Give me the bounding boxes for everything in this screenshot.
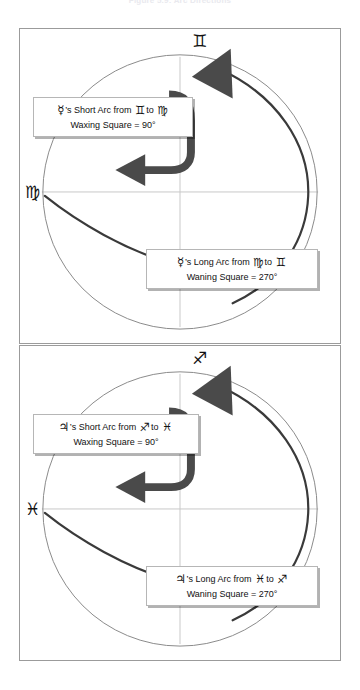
from-sign-symbol: ♓ [254,572,266,586]
to-sign-symbol: ♓ [161,420,173,434]
possessive-text: ’s Long Arc from [185,257,250,267]
planet-symbol: ♃ [175,572,186,586]
callout-line-1: ☿’s Long Arc from ♍to ♊ [154,254,310,271]
mercury-panel: ♊ ♍ [19,28,341,344]
to-sign-symbol: ♊ [275,255,287,269]
sign-glyph-top-mercury: ♊ [192,33,207,50]
callout-line-1: ♃’s Short Arc from ♐to ♓ [41,419,191,436]
from-sign-symbol: ♊ [134,103,146,117]
to-word: to [151,422,159,432]
to-sign-symbol: ♐ [276,572,288,586]
callout-line-2: Waning Square = 270° [154,271,310,283]
sign-glyph-left-mercury: ♍ [25,184,40,201]
callout-line-1: ♃’s Long Arc from ♓to ♐ [154,571,310,588]
figure-page: Figure 5.9: Arc Directions ♊ ♍ [0,0,360,690]
from-sign-symbol: ♐ [139,420,151,434]
callout-long-arc-jupiter: ♃’s Long Arc from ♓to ♐ Waning Square = … [146,566,318,606]
possessive-text: ’s Short Arc from [65,105,131,115]
jupiter-panel: ♐ ♓ [19,345,341,661]
sign-glyph-top-jupiter: ♐ [192,350,207,367]
to-word: to [265,257,273,267]
jupiter-diagram-graphics [20,346,340,660]
sign-glyph-left-jupiter: ♓ [25,501,40,518]
callout-short-arc-mercury: ☿’s Short Arc from ♊to ♍ Waxing Square =… [33,97,193,137]
callout-line-2: Waxing Square = 90° [41,436,191,448]
to-word: to [266,574,274,584]
to-word: to [146,105,154,115]
callout-line-1: ☿’s Short Arc from ♊to ♍ [41,102,185,119]
planet-symbol: ☿ [57,103,65,117]
possessive-text: ’s Long Arc from [187,574,252,584]
planet-symbol: ♃ [59,420,70,434]
figure-title: Figure 5.9: Arc Directions [0,0,360,5]
callout-line-2: Waning Square = 270° [154,588,310,600]
callout-long-arc-mercury: ☿’s Long Arc from ♍to ♊ Waning Square = … [146,249,318,289]
callout-line-2: Waxing Square = 90° [41,119,185,131]
from-sign-symbol: ♍ [252,255,264,269]
possessive-text: ’s Short Arc from [70,422,136,432]
callout-short-arc-jupiter: ♃’s Short Arc from ♐to ♓ Waxing Square =… [33,414,199,454]
mercury-diagram-graphics [20,29,340,343]
planet-symbol: ☿ [177,255,185,269]
to-sign-symbol: ♍ [156,103,168,117]
